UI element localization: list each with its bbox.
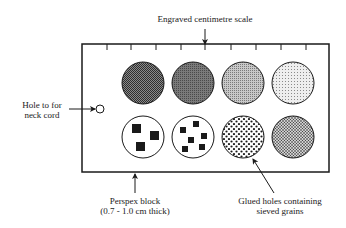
neck-hole-label-line1: Hole to for: [14, 100, 70, 110]
sample-hole-2: [172, 62, 214, 104]
sample-hole-5: [122, 116, 164, 158]
perspex-block-label-line1: Perspex block: [95, 196, 175, 206]
neck-cord-hole: [96, 105, 104, 113]
scale-label: Engraved centimetre scale: [155, 14, 255, 24]
perspex-block-label-line2: (0.7 - 1.0 cm thick): [95, 206, 175, 216]
sample-hole-4: [272, 62, 314, 104]
sample-hole-1: [122, 62, 164, 104]
neck-hole-label-line2: neck cord: [14, 110, 70, 120]
sample-hole-8: [272, 116, 314, 158]
glued-holes-label-line2: sieved grains: [225, 206, 335, 216]
sample-hole-3: [222, 62, 264, 104]
sample-hole-6: [172, 116, 214, 158]
glued-holes-label-line1: Glued holes containing: [225, 196, 335, 206]
sample-hole-7: [222, 116, 264, 158]
